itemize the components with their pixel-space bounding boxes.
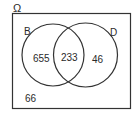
d-only-count: 46 xyxy=(92,54,104,65)
intersection-count: 233 xyxy=(61,52,78,63)
universe-label: Ω xyxy=(13,2,21,14)
set-d-label: D xyxy=(110,27,117,38)
venn-diagram: Ω B D 655 233 46 66 xyxy=(0,0,136,113)
outside-count: 66 xyxy=(25,93,37,104)
set-b-label: B xyxy=(24,26,31,37)
b-only-count: 655 xyxy=(33,53,50,64)
